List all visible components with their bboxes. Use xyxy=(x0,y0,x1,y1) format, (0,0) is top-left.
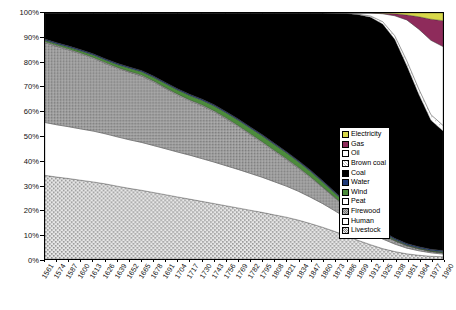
x-axis-tick xyxy=(335,260,336,262)
legend-label: Electricity xyxy=(351,131,381,138)
x-axis-tick xyxy=(214,260,215,262)
x-axis-tick xyxy=(250,260,251,262)
x-axis-tick xyxy=(274,260,275,262)
legend-label: Gas xyxy=(351,141,364,148)
legend-label: Peat xyxy=(351,198,366,205)
legend-swatch xyxy=(342,189,349,196)
y-axis-tick-label: 70% xyxy=(24,82,39,91)
x-axis-tick xyxy=(44,260,45,262)
y-axis-tick-label: 60% xyxy=(24,107,39,116)
y-axis-tick-label: 80% xyxy=(24,57,39,66)
x-axis-tick xyxy=(396,260,397,262)
y-axis-tick-label: 0% xyxy=(28,256,39,265)
legend-label: Brown coal xyxy=(351,160,386,167)
legend-swatch xyxy=(342,208,349,215)
y-axis-tick-label: 100% xyxy=(20,8,39,17)
y-axis: 0%10%20%30%40%50%60%70%80%90%100% xyxy=(0,12,44,260)
legend-label: Livestock xyxy=(351,227,381,234)
legend-item[interactable]: Electricity xyxy=(342,130,386,140)
x-axis-tick xyxy=(153,260,154,262)
legend-label: Water xyxy=(351,179,370,186)
x-axis-tick xyxy=(226,260,227,262)
y-axis-tick-label: 20% xyxy=(24,206,39,215)
legend-swatch xyxy=(342,218,349,225)
legend-item[interactable]: Coal xyxy=(342,168,386,178)
x-axis-tick xyxy=(323,260,324,262)
legend-item[interactable]: Peat xyxy=(342,197,386,207)
x-axis-tick xyxy=(105,260,106,262)
x-axis-tick-label: 1925 xyxy=(379,262,395,280)
x-axis: 1561157415871600161316261639165216651678… xyxy=(44,262,444,310)
x-axis-tick xyxy=(68,260,69,262)
y-axis-tick-label: 40% xyxy=(24,156,39,165)
y-axis-tick-label: 90% xyxy=(24,32,39,41)
legend-item[interactable]: Water xyxy=(342,178,386,188)
x-axis-tick xyxy=(92,260,93,262)
legend-item[interactable]: Livestock xyxy=(342,226,386,236)
x-axis-tick xyxy=(129,260,130,262)
legend-label: Oil xyxy=(351,150,360,157)
legend-swatch xyxy=(342,227,349,234)
legend-swatch xyxy=(342,131,349,138)
legend-item[interactable]: Oil xyxy=(342,149,386,159)
x-axis-tick xyxy=(189,260,190,262)
x-axis-tick xyxy=(177,260,178,262)
x-axis-tick xyxy=(262,260,263,262)
y-axis-tick-label: 30% xyxy=(24,181,39,190)
x-axis-tick xyxy=(80,260,81,262)
legend-swatch xyxy=(342,170,349,177)
x-axis-tick xyxy=(408,260,409,262)
y-axis-tick-label: 50% xyxy=(24,132,39,141)
x-axis-tick xyxy=(238,260,239,262)
x-axis-tick xyxy=(117,260,118,262)
x-axis-tick xyxy=(286,260,287,262)
x-axis-tick xyxy=(383,260,384,262)
x-axis-tick xyxy=(311,260,312,262)
x-axis-tick xyxy=(165,260,166,262)
x-axis-tick xyxy=(420,260,421,262)
x-axis-tick xyxy=(202,260,203,262)
legend-item[interactable]: Gas xyxy=(342,140,386,150)
legend-swatch xyxy=(342,150,349,157)
legend-label: Coal xyxy=(351,170,366,177)
x-axis-tick-label: 1821 xyxy=(282,262,298,280)
x-axis-tick xyxy=(444,260,445,262)
legend-swatch xyxy=(342,141,349,148)
legend-item[interactable]: Wind xyxy=(342,188,386,198)
x-axis-tick xyxy=(347,260,348,262)
x-axis-tick xyxy=(371,260,372,262)
legend-swatch xyxy=(342,160,349,167)
x-axis-tick xyxy=(56,260,57,262)
legend-swatch xyxy=(342,179,349,186)
x-axis-tick xyxy=(432,260,433,262)
legend-item[interactable]: Firewood xyxy=(342,207,386,217)
chart-legend: ElectricityGasOilBrown coalCoalWaterWind… xyxy=(339,127,390,239)
x-axis-tick xyxy=(359,260,360,262)
legend-label: Wind xyxy=(351,189,367,196)
legend-swatch xyxy=(342,198,349,205)
legend-item[interactable]: Human xyxy=(342,216,386,226)
legend-label: Firewood xyxy=(351,208,380,215)
x-axis-tick xyxy=(141,260,142,262)
legend-item[interactable]: Brown coal xyxy=(342,159,386,169)
y-axis-tick-label: 10% xyxy=(24,231,39,240)
x-axis-tick xyxy=(299,260,300,262)
legend-label: Human xyxy=(351,218,374,225)
